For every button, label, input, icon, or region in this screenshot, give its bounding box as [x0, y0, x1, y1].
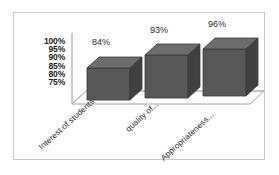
- bar-value-label-0: 84%: [92, 37, 110, 47]
- chart-frame: 100% 95% 90% 85% 80% 75% 84% 93% 96% Int…: [13, 12, 265, 160]
- bar-column-1[interactable]: [145, 44, 200, 98]
- bar-front-face-2: [203, 49, 246, 96]
- bar-front-face-1: [145, 55, 188, 98]
- bar-value-label-1: 93%: [150, 25, 168, 35]
- y-axis-tick-5: 75%: [27, 78, 65, 86]
- bar-column-2[interactable]: [203, 38, 258, 96]
- bar-column-0[interactable]: [87, 57, 142, 100]
- chart-plot-area: 100% 95% 90% 85% 80% 75% 84% 93% 96% Int…: [14, 13, 266, 161]
- y-axis-tick-labels: 100% 95% 90% 85% 80% 75%: [27, 37, 65, 86]
- bar-front-face-0: [87, 68, 130, 100]
- bar-value-label-2: 96%: [208, 19, 226, 29]
